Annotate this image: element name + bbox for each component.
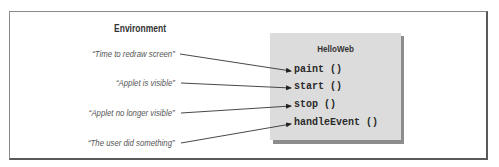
connector-arrows [0, 0, 499, 167]
arrow-not-visible-to-stop [181, 106, 291, 113]
arrow-user-to-handle-event [181, 124, 291, 143]
arrow-redraw-to-paint [180, 54, 291, 71]
arrow-visible-to-start [181, 83, 291, 88]
